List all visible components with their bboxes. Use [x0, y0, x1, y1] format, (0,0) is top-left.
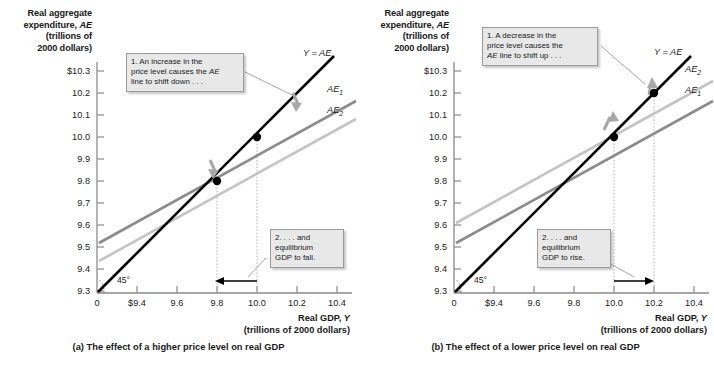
callout-2-b-line3: GDP to rise.: [542, 253, 585, 262]
x-tick-label-0-b: $9.4: [474, 298, 514, 308]
origin-label-a: 0: [77, 298, 117, 308]
x-axis-title-line1-b: Real GDP,: [655, 313, 701, 323]
equilibrium-dot-initial-a: [253, 133, 261, 141]
panel-caption-a: (a) The effect of a higher price level o…: [0, 342, 357, 352]
panel-b: Real aggregate expenditure, AE (trillion…: [357, 0, 714, 367]
y-tick-label-4-b: 9.9: [401, 154, 447, 164]
x-tick-label-1-a: 9.6: [157, 298, 197, 308]
callout-1-a-line3: line to shift down . . .: [131, 77, 203, 86]
axis-arrow-a: [215, 277, 257, 285]
x-tick-label-4-b: 10.2: [634, 298, 674, 308]
shift-arrow-group-b: [604, 77, 658, 130]
panel-caption-b: (b) The effect of a lower price level on…: [357, 342, 714, 352]
curve-ae1-a: [99, 101, 356, 243]
curve-ae1-b: [456, 101, 713, 243]
y-tick-label-6-a: 9.7: [44, 198, 90, 208]
x-tick-label-4-a: 10.2: [277, 298, 317, 308]
callout-1-a-line2: price level causes the AE: [131, 67, 220, 76]
curve-label-identity-b: Y = AE: [654, 47, 682, 57]
callout-2-b-line1: 2. . . . and: [542, 233, 577, 242]
curve-label-ae2-b: AE2: [685, 64, 701, 76]
x-tick-label-0-a: $9.4: [117, 298, 157, 308]
curve-label-ae1-a: AE1: [327, 84, 343, 96]
y-tick-label-6-b: 9.7: [401, 198, 447, 208]
y-tick-label-5-a: 9.8: [44, 176, 90, 186]
y-tick-label-5-b: 9.8: [401, 176, 447, 186]
y-tick-label-2-b: 10.1: [401, 110, 447, 120]
x-tick-label-3-b: 10.0: [594, 298, 634, 308]
callout-2-a-line3: GDP to fall.: [275, 253, 315, 262]
x-ticks-b: [494, 286, 694, 293]
angle-label-a: 45°: [117, 275, 130, 285]
y-ticks-b: [454, 71, 461, 291]
y-tick-label-1-a: 10.2: [44, 88, 90, 98]
callout-2-b: 2. . . . and equilibrium GDP to rise.: [537, 229, 611, 268]
x-axis-title-line2-a: (trillions of 2000 dollars): [244, 325, 350, 335]
x-axis-title-y-b: Y: [701, 313, 707, 323]
y-tick-label-9-a: 9.4: [44, 264, 90, 274]
x-axis-title-line1-a: Real GDP,: [298, 313, 344, 323]
x-tick-label-5-a: 10.4: [317, 298, 357, 308]
curve-ae2-b: [456, 81, 713, 223]
callout-2-b-line2: equilibrium: [542, 243, 580, 252]
y-tick-label-8-a: 9.5: [44, 242, 90, 252]
y-tick-label-0-a: $10.3: [44, 66, 90, 76]
callout-1-a-line1: 1. An increase in the: [131, 57, 203, 66]
aggregate-expenditure-figure: Real aggregate expenditure, AE (trillion…: [0, 0, 714, 367]
curve-label-ae2-a: AE2: [327, 105, 343, 117]
x-axis-title-line2-b: (trillions of 2000 dollars): [601, 325, 707, 335]
x-axis-title-b: Real GDP, Y (trillions of 2000 dollars): [457, 313, 707, 336]
callout-1-b-line2: price level causes the: [487, 41, 563, 50]
x-tick-label-1-b: 9.6: [514, 298, 554, 308]
y-tick-label-3-b: 10.0: [401, 132, 447, 142]
y-tick-label-4-a: 9.9: [44, 154, 90, 164]
callout-leader-1-b: [601, 46, 645, 84]
curve-label-ae1-b: AE1: [685, 85, 701, 97]
y-tick-label-10-b: 9.3: [401, 286, 447, 296]
y-tick-label-8-b: 9.5: [401, 242, 447, 252]
callout-2-a-line2: equilibrium: [275, 243, 313, 252]
x-tick-label-2-b: 9.8: [554, 298, 594, 308]
origin-label-b: 0: [434, 298, 474, 308]
callout-leader-1-a: [245, 72, 292, 95]
callout-1-a: 1. An increase in the price level causes…: [126, 53, 244, 92]
panel-a: Real aggregate expenditure, AE (trillion…: [0, 0, 357, 367]
x-tick-label-5-b: 10.4: [674, 298, 714, 308]
x-tick-label-3-a: 10.0: [237, 298, 277, 308]
callout-1-b: 1. A decrease in the price level causes …: [482, 27, 598, 66]
x-axis-title-a: Real GDP, Y (trillions of 2000 dollars): [100, 313, 350, 336]
y-tick-label-1-b: 10.2: [401, 88, 447, 98]
y-tick-label-7-a: 9.6: [44, 220, 90, 230]
x-ticks-a: [137, 286, 337, 293]
y-tick-label-0-b: $10.3: [401, 66, 447, 76]
y-tick-label-9-b: 9.4: [401, 264, 447, 274]
equilibrium-dot-new-b: [650, 89, 658, 97]
y-tick-label-7-b: 9.6: [401, 220, 447, 230]
equilibrium-dot-initial-b: [610, 133, 618, 141]
y-tick-label-3-a: 10.0: [44, 132, 90, 142]
axis-arrow-b: [614, 277, 654, 285]
callout-leader-2-a: [248, 258, 266, 277]
angle-label-b: 45°: [474, 275, 487, 285]
y-tick-label-2-a: 10.1: [44, 110, 90, 120]
x-axis-title-y-a: Y: [344, 313, 350, 323]
callout-1-b-line1: 1. A decrease in the: [487, 31, 556, 40]
equilibrium-dot-new-a: [213, 177, 221, 185]
x-tick-label-2-a: 9.8: [197, 298, 237, 308]
callout-2-a-line1: 2. . . . and: [275, 233, 310, 242]
callout-1-b-line3: AE line to shift up . . .: [487, 51, 562, 60]
y-tick-label-10-a: 9.3: [44, 286, 90, 296]
callout-2-a: 2. . . . and equilibrium GDP to fall.: [270, 229, 344, 268]
curve-label-identity-a: Y = AE: [303, 48, 331, 58]
